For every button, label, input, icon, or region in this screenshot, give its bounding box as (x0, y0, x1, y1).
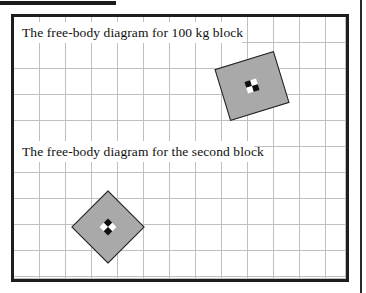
panel-caption-first: The free-body diagram for 100 kg block (14, 22, 242, 43)
top-horizontal-rule (0, 1, 116, 5)
center-of-mass-icon (100, 219, 117, 236)
figure-page: The free-body diagram for 100 kg block T… (0, 0, 366, 293)
panel-caption-second: The free-body diagram for the second blo… (14, 141, 254, 162)
right-vertical-rule (360, 0, 362, 293)
figure-frame: The free-body diagram for 100 kg block T… (11, 14, 349, 282)
center-of-mass-icon (245, 79, 260, 94)
